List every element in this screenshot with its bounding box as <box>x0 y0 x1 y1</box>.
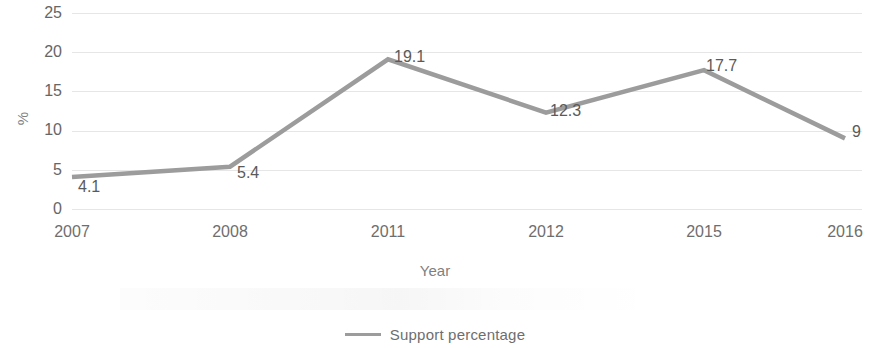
plot-area: 4.1 5.4 19.1 12.3 17.7 9 <box>72 13 862 209</box>
x-tick-label: 2015 <box>686 224 722 240</box>
legend-line-swatch <box>345 333 381 336</box>
scan-artifact <box>120 288 660 310</box>
data-label-2016: 9 <box>852 124 861 140</box>
chart-legend: Support percentage <box>0 326 870 343</box>
line-chart: % 25 20 15 10 5 0 4.1 5.4 19.1 12.3 17.7… <box>0 0 870 348</box>
x-tick-label: 2012 <box>528 224 564 240</box>
data-label-2007: 4.1 <box>78 179 100 195</box>
y-tick-label: 0 <box>26 201 62 217</box>
y-tick-label: 10 <box>26 122 62 138</box>
data-label-2008: 5.4 <box>237 165 259 181</box>
x-tick-label: 2008 <box>212 224 248 240</box>
x-axis-title: Year <box>0 262 870 279</box>
x-tick-label: 2011 <box>371 224 405 240</box>
x-tick-label: 2016 <box>827 224 863 240</box>
data-label-2015: 17.7 <box>706 58 737 74</box>
x-tick-label: 2007 <box>54 224 90 240</box>
y-tick-label: 15 <box>26 83 62 99</box>
gridline-0 <box>72 209 862 210</box>
data-label-2011: 19.1 <box>394 49 425 65</box>
y-tick-label: 20 <box>26 44 62 60</box>
x-axis-tick-labels: 2007 2008 2011 2012 2015 2016 <box>0 224 870 246</box>
y-tick-label: 25 <box>26 5 62 21</box>
series-line-support-percentage <box>72 13 862 209</box>
y-tick-label: 5 <box>26 162 62 178</box>
legend-label-support-percentage: Support percentage <box>390 326 525 343</box>
data-label-2012: 12.3 <box>550 103 581 119</box>
y-axis-tick-labels: 25 20 15 10 5 0 <box>26 0 62 348</box>
